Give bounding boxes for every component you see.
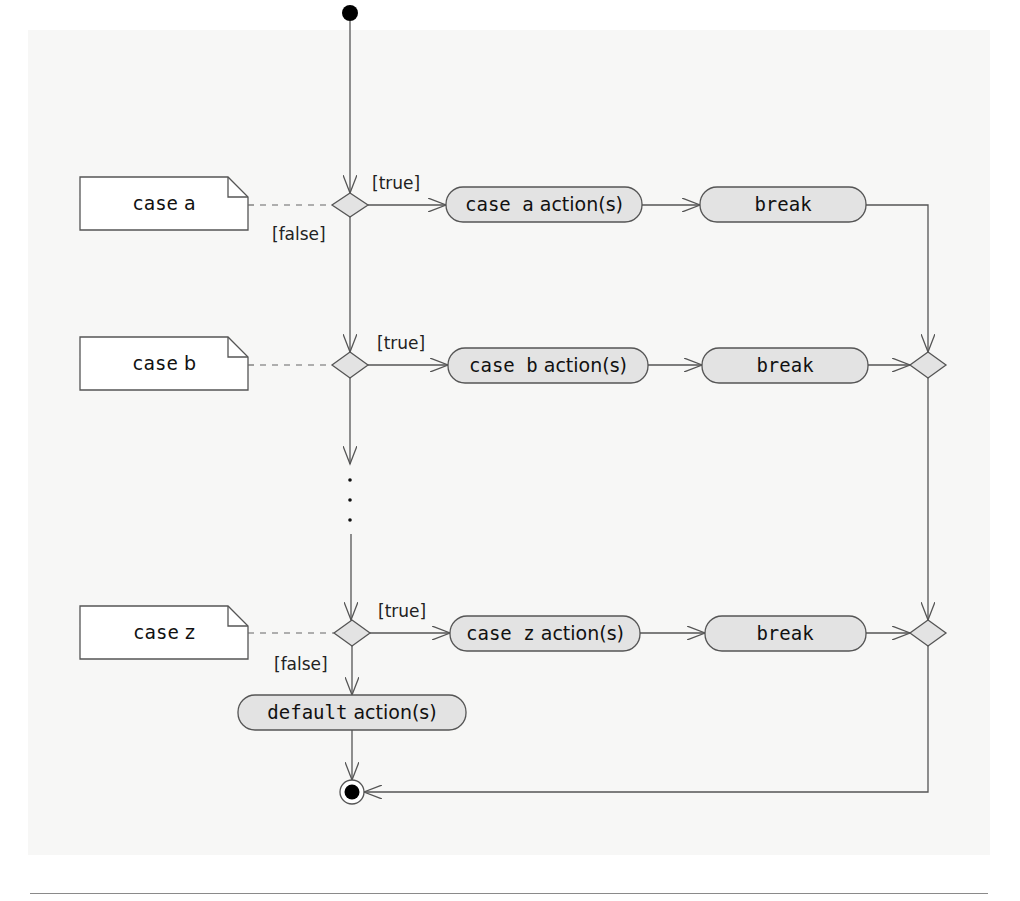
action-case-a: case a action(s) <box>446 187 642 222</box>
note-case-b-value: b <box>184 352 196 374</box>
action-case-b: case b action(s) <box>448 348 648 383</box>
action-break-b: break <box>702 348 868 383</box>
decision-node-a <box>332 193 368 217</box>
note-case-z-value: z <box>185 621 195 643</box>
action-case-a-label: action(s) <box>540 193 623 215</box>
action-break-b-label: break <box>756 354 814 376</box>
bottom-rule <box>30 893 988 894</box>
svg-text:case z: case z <box>133 621 195 643</box>
svg-text:case b: case b <box>132 352 196 374</box>
flow-break-a-to-merge <box>866 205 928 352</box>
action-default-label: action(s) <box>353 701 436 723</box>
note-case-b: case b <box>80 337 248 390</box>
action-case-z: case z action(s) <box>450 616 640 651</box>
note-case-a: case a <box>80 177 248 230</box>
guard-z-false: [false] <box>274 654 328 674</box>
ellipsis-dots <box>348 478 352 522</box>
action-case-z-keyword: case z <box>466 622 535 644</box>
guard-a-true: [true] <box>372 173 420 193</box>
guard-a-false: [false] <box>272 224 326 244</box>
action-default: default action(s) <box>238 695 466 730</box>
action-break-a: break <box>700 187 866 222</box>
decision-node-z <box>334 620 370 646</box>
svg-text:default action(s): default action(s) <box>267 701 436 723</box>
initial-node <box>342 5 358 21</box>
guard-b-true: [true] <box>377 333 425 353</box>
decision-node-b <box>332 352 368 378</box>
note-case-b-keyword: case <box>132 352 178 374</box>
action-break-z-label: break <box>756 622 814 644</box>
action-break-a-label: break <box>754 193 812 215</box>
action-case-z-label: action(s) <box>541 622 624 644</box>
final-node <box>340 780 364 804</box>
note-case-a-value: a <box>184 192 196 214</box>
merge-node-z <box>910 620 946 646</box>
svg-text:case a: case a <box>132 192 195 214</box>
action-default-keyword: default <box>267 701 347 723</box>
action-case-b-label: action(s) <box>544 354 627 376</box>
note-case-z: case z <box>80 606 248 659</box>
action-break-z: break <box>705 616 866 651</box>
svg-text:case z action(s): case z action(s) <box>466 622 624 644</box>
action-case-b-keyword: case b <box>469 354 538 376</box>
note-case-z-keyword: case <box>133 621 179 643</box>
activity-diagram: case a case b case z [true] [false] [tru… <box>0 0 1020 901</box>
svg-text:case a action(s): case a action(s) <box>465 193 623 215</box>
merge-node-b <box>910 352 946 378</box>
note-case-a-keyword: case <box>132 192 178 214</box>
guard-z-true: [true] <box>378 601 426 621</box>
action-case-a-keyword: case a <box>465 193 534 215</box>
svg-text:case b action(s): case b action(s) <box>469 354 627 376</box>
